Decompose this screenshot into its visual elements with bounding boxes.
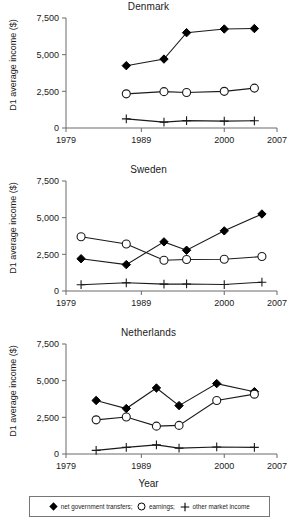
svg-text:2007: 2007 — [267, 461, 287, 471]
plot-area-sweden: 02,5005,0007,5001979198920002007 — [0, 163, 297, 326]
svg-text:0: 0 — [54, 123, 59, 133]
svg-text:2,500: 2,500 — [36, 87, 59, 97]
svg-text:5,000: 5,000 — [36, 213, 59, 223]
legend-label: earnings; — [149, 503, 175, 510]
svg-text:0: 0 — [54, 286, 59, 296]
svg-text:2000: 2000 — [214, 461, 234, 471]
svg-text:7,500: 7,500 — [36, 176, 59, 186]
panel-denmark: Denmark D1 average income ($) 02,5005,00… — [0, 0, 297, 163]
panel-netherlands: Netherlands D1 average income ($) 02,500… — [0, 326, 297, 489]
legend-item-earnings: earnings; — [137, 502, 174, 511]
svg-text:2000: 2000 — [214, 298, 234, 308]
plus-icon — [180, 502, 190, 512]
svg-text:7,500: 7,500 — [36, 13, 59, 23]
svg-text:5,000: 5,000 — [36, 376, 59, 386]
svg-text:7,500: 7,500 — [36, 339, 59, 349]
svg-text:2,500: 2,500 — [36, 250, 59, 260]
x-axis-label: Year — [0, 478, 297, 489]
legend: net government transfers; earnings; othe… — [29, 496, 270, 517]
svg-text:2007: 2007 — [267, 298, 287, 308]
plot-area-denmark: 02,5005,0007,5001979198920002007 — [0, 0, 297, 163]
svg-text:1989: 1989 — [131, 135, 151, 145]
svg-text:5,000: 5,000 — [36, 50, 59, 60]
svg-text:0: 0 — [54, 449, 59, 459]
legend-label: other market income — [192, 503, 249, 510]
svg-text:2000: 2000 — [214, 135, 234, 145]
legend-label: net government transfers; — [61, 503, 133, 510]
svg-text:2,500: 2,500 — [36, 413, 59, 423]
legend-item-net-government-transfers: net government transfers; — [49, 502, 132, 511]
svg-text:1989: 1989 — [131, 298, 151, 308]
plot-area-netherlands: 02,5005,0007,5001979198920002007 — [0, 326, 297, 489]
panel-sweden: Sweden D1 average income ($) 02,5005,000… — [0, 163, 297, 326]
svg-text:1979: 1979 — [56, 298, 76, 308]
open-circle-icon — [137, 502, 146, 511]
figure: Denmark D1 average income ($) 02,5005,00… — [0, 0, 297, 522]
svg-text:1979: 1979 — [56, 461, 76, 471]
filled-diamond-icon — [49, 502, 58, 511]
legend-item-other-market-income: other market income — [180, 502, 250, 512]
svg-text:1979: 1979 — [56, 135, 76, 145]
svg-text:1989: 1989 — [131, 461, 151, 471]
svg-text:2007: 2007 — [267, 135, 287, 145]
